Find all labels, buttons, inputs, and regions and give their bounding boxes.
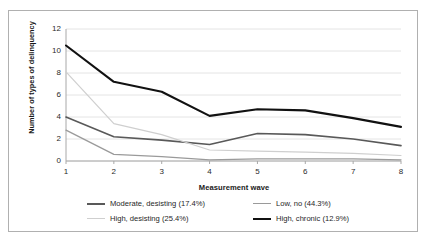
- legend-row: Moderate, desisting (17.4%)Low, no (44.3…: [87, 196, 387, 211]
- legend-label-high-chronic: High, chronic (12.9%): [276, 214, 349, 223]
- figure-frame: Number of types of delinquency 024681012…: [8, 10, 418, 232]
- series-line: [66, 130, 401, 160]
- series-line: [66, 72, 401, 156]
- legend-swatch-high-desisting: [87, 218, 105, 219]
- legend-item-high-chronic[interactable]: High, chronic (12.9%): [253, 214, 387, 223]
- legend-label-moderate-desisting: Moderate, desisting (17.4%): [110, 199, 205, 208]
- legend-swatch-high-chronic: [253, 218, 271, 220]
- series-line: [66, 117, 401, 146]
- legend-row: High, desisting (25.4%)High, chronic (12…: [87, 211, 387, 226]
- legend-label-high-desisting: High, desisting (25.4%): [110, 214, 189, 223]
- legend-item-low-no[interactable]: Low, no (44.3%): [253, 199, 387, 208]
- legend-swatch-low-no: [253, 203, 271, 204]
- x-axis-title: Measurement wave: [66, 183, 402, 192]
- chart-area: Number of types of delinquency 024681012…: [9, 11, 419, 233]
- series-line: [66, 46, 401, 127]
- chart-legend: Moderate, desisting (17.4%)Low, no (44.3…: [87, 196, 387, 226]
- legend-swatch-moderate-desisting: [87, 203, 105, 205]
- legend-label-low-no: Low, no (44.3%): [276, 199, 331, 208]
- legend-item-high-desisting[interactable]: High, desisting (25.4%): [87, 214, 253, 223]
- legend-item-moderate-desisting[interactable]: Moderate, desisting (17.4%): [87, 199, 253, 208]
